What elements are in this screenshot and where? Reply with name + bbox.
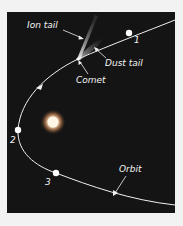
dust-tail-label: Dust tail <box>105 58 143 68</box>
orbit-arrowhead-icon <box>113 190 118 196</box>
orbit-path <box>18 20 175 205</box>
comet-pointer <box>80 62 88 74</box>
sun-core <box>48 117 59 128</box>
comet-label: Comet <box>76 75 106 85</box>
position-marker-3 <box>53 170 59 176</box>
comet <box>76 57 79 60</box>
ion-tail-arrowhead-icon <box>79 36 85 40</box>
position-marker-2 <box>15 127 21 133</box>
position-label-2: 2 <box>10 135 16 145</box>
position-label-3: 3 <box>45 177 51 187</box>
position-label-1: 1 <box>134 35 140 45</box>
ion-tail-label: Ion tail <box>27 20 58 30</box>
comet-orbit-diagram: 1 2 3 Ion tail Dust tail Comet Orbit <box>0 0 183 226</box>
position-marker-1 <box>126 30 132 36</box>
orbit-label: Orbit <box>119 164 142 174</box>
orbit-pointer <box>115 176 126 193</box>
